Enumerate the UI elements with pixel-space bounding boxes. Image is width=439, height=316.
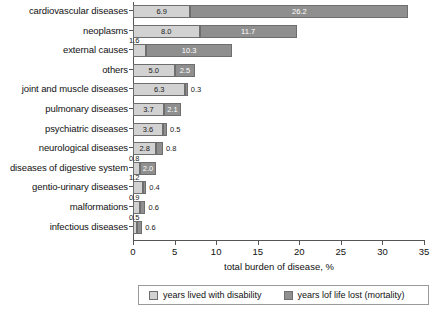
bar-value-disability-outside: 1.2 bbox=[129, 174, 139, 182]
category-label-malformations: malformations bbox=[0, 198, 128, 216]
bar-segment-disability: 8.0 bbox=[133, 25, 200, 38]
bar-segment-disability: 3.7 bbox=[133, 103, 164, 116]
x-axis-tick bbox=[175, 241, 176, 245]
chart-row: neurological diseases2.80.8 bbox=[0, 139, 439, 157]
bar-value-disability-outside: 0.5 bbox=[129, 214, 139, 222]
bar-value-mortality-outside: 0.8 bbox=[166, 142, 176, 155]
bar-segment-mortality: 26.2 bbox=[190, 5, 408, 18]
category-label-infectious-diseases: infectious diseases bbox=[0, 218, 128, 236]
bar-value-mortality-outside: 0.4 bbox=[149, 181, 159, 194]
chart-row: malformations0.90.6 bbox=[0, 198, 439, 216]
bar-segment-mortality bbox=[140, 201, 145, 214]
bar-segment-disability: 5.0 bbox=[133, 64, 175, 77]
bar-segment-mortality bbox=[163, 123, 167, 136]
x-axis-tick bbox=[133, 241, 134, 245]
stacked-bar: 10.3 bbox=[133, 44, 232, 57]
bar-segment-mortality bbox=[137, 221, 142, 234]
category-label-joint-and-muscle-diseases: joint and muscle diseases bbox=[0, 80, 128, 98]
category-label-external-causes: external causes bbox=[0, 41, 128, 59]
x-axis-tick-label: 0 bbox=[118, 246, 148, 257]
category-label-neoplasms: neoplasms bbox=[0, 22, 128, 40]
category-label-others: others bbox=[0, 61, 128, 79]
x-axis-tick bbox=[382, 241, 383, 245]
bar-value-mortality-outside: 0.5 bbox=[170, 123, 180, 136]
bar-value-mortality-outside: 0.6 bbox=[148, 201, 158, 214]
chart-row: external causes10.31.6 bbox=[0, 41, 439, 59]
bar-segment-disability bbox=[133, 44, 146, 57]
stacked-bar bbox=[133, 221, 142, 234]
x-axis-title: total burden of disease, % bbox=[133, 261, 425, 272]
x-axis-tick-label: 5 bbox=[160, 246, 190, 257]
stacked-bar: 5.02.5 bbox=[133, 64, 195, 77]
stacked-bar: 6.926.2 bbox=[133, 5, 408, 18]
chart-row: neoplasms8.011.7 bbox=[0, 22, 439, 40]
bar-segment-mortality: 11.7 bbox=[200, 25, 297, 38]
legend-item-mortality: years lof life lost (mortality) bbox=[284, 290, 405, 300]
bar-segment-mortality bbox=[143, 181, 146, 194]
stacked-bar: 8.011.7 bbox=[133, 25, 297, 38]
x-axis-tick-label: 30 bbox=[367, 246, 397, 257]
x-axis-tick-label: 15 bbox=[243, 246, 273, 257]
chart-legend: years lived with disability years lof li… bbox=[138, 285, 429, 305]
bar-segment-disability: 6.3 bbox=[133, 83, 185, 96]
legend-swatch-mortality-icon bbox=[284, 291, 293, 300]
legend-item-disability: years lived with disability bbox=[149, 290, 262, 300]
stacked-bar: 3.6 bbox=[133, 123, 167, 136]
chart-row: joint and muscle diseases6.30.3 bbox=[0, 80, 439, 98]
bar-value-mortality-outside: 0.6 bbox=[145, 221, 155, 234]
legend-swatch-disability-icon bbox=[149, 291, 158, 300]
category-label-pulmonary-diseases: pulmonary diseases bbox=[0, 100, 128, 118]
chart-row: cardiovascular diseases6.926.2 bbox=[0, 2, 439, 20]
bar-segment-disability: 3.6 bbox=[133, 123, 163, 136]
chart-row: gentio-urinary diseases1.20.4 bbox=[0, 178, 439, 196]
category-label-neurological-diseases: neurological diseases bbox=[0, 139, 128, 157]
category-label-cardiovascular-diseases: cardiovascular diseases bbox=[0, 2, 128, 20]
chart-row: pulmonary diseases3.72.1 bbox=[0, 100, 439, 118]
bar-segment-mortality bbox=[156, 142, 163, 155]
x-axis-tick bbox=[424, 241, 425, 245]
x-axis-tick-label: 35 bbox=[409, 246, 439, 257]
bar-value-mortality-outside: 0.3 bbox=[191, 83, 201, 96]
x-axis-tick bbox=[258, 241, 259, 245]
bar-value-disability-outside: 0.9 bbox=[129, 194, 139, 202]
bar-value-disability-outside: 1.6 bbox=[129, 37, 139, 45]
bar-segment-mortality bbox=[185, 83, 187, 96]
x-axis-tick-label: 10 bbox=[201, 246, 231, 257]
category-label-diseases-of-digestive-system: diseases of digestive system bbox=[0, 159, 128, 177]
x-axis-tick bbox=[216, 241, 217, 245]
category-label-gentio-urinary-diseases: gentio-urinary diseases bbox=[0, 178, 128, 196]
bar-value-disability-outside: 0.8 bbox=[129, 155, 139, 163]
bar-segment-disability: 6.9 bbox=[133, 5, 190, 18]
legend-label-mortality: years lof life lost (mortality) bbox=[298, 290, 405, 300]
category-label-psychiatric-diseases: psychiatric diseases bbox=[0, 120, 128, 138]
bar-segment-mortality: 2.5 bbox=[175, 64, 196, 77]
x-axis-tick-label: 20 bbox=[284, 246, 314, 257]
plot-area: cardiovascular diseases6.926.2neoplasms8… bbox=[0, 0, 439, 244]
x-axis-line bbox=[133, 240, 425, 241]
stacked-bar: 6.3 bbox=[133, 83, 188, 96]
legend-label-disability: years lived with disability bbox=[163, 290, 262, 300]
chart-row: psychiatric diseases3.60.5 bbox=[0, 120, 439, 138]
chart-row: diseases of digestive system2.00.8 bbox=[0, 159, 439, 177]
chart-row: infectious diseases0.50.6 bbox=[0, 218, 439, 236]
stacked-bar: 3.72.1 bbox=[133, 103, 181, 116]
bar-segment-mortality: 10.3 bbox=[146, 44, 232, 57]
chart-row: others5.02.5 bbox=[0, 61, 439, 79]
bar-segment-mortality: 2.0 bbox=[140, 162, 157, 175]
x-axis-tick bbox=[299, 241, 300, 245]
bar-segment-mortality: 2.1 bbox=[164, 103, 181, 116]
x-axis-tick-label: 25 bbox=[326, 246, 356, 257]
x-axis-tick bbox=[341, 241, 342, 245]
burden-of-disease-chart: cardiovascular diseases6.926.2neoplasms8… bbox=[0, 0, 439, 316]
